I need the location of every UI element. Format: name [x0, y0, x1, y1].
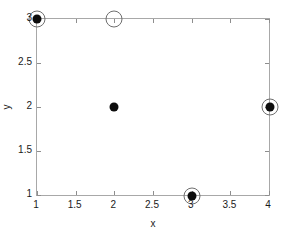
- ytick-label: 2: [20, 101, 32, 111]
- ytick-mark: [37, 107, 41, 108]
- ytick-mark: [37, 63, 41, 64]
- plot-area[interactable]: [36, 18, 270, 196]
- xtick-mark: [153, 191, 154, 195]
- xtick-mark: [76, 191, 77, 195]
- xtick-mark: [114, 191, 115, 195]
- y-axis-label: y: [2, 105, 12, 110]
- xtick-mark-top: [153, 19, 154, 23]
- xtick-label: 2: [111, 200, 117, 210]
- ytick-mark: [37, 151, 41, 152]
- ytick-label: 1.5: [11, 145, 32, 155]
- data-point-dot[interactable]: [110, 103, 119, 112]
- xtick-label: 3.5: [222, 200, 236, 210]
- xtick-label: 4: [265, 200, 271, 210]
- ytick-mark-right: [265, 151, 269, 152]
- ytick-mark-right: [265, 63, 269, 64]
- ytick-mark-right: [265, 19, 269, 20]
- xtick-mark: [230, 191, 231, 195]
- xtick-label: 1.5: [68, 200, 82, 210]
- xtick-mark: [269, 191, 270, 195]
- xtick-mark-top: [230, 19, 231, 23]
- data-point-dot[interactable]: [33, 15, 42, 24]
- ytick-mark: [37, 195, 41, 196]
- figure-canvas: 1 1.5 2 2.5 3 3.5 4 1 1.5 2 2.5 3 x y: [0, 0, 284, 239]
- ytick-label: 3: [20, 13, 32, 23]
- data-point-dot[interactable]: [266, 103, 275, 112]
- ytick-label: 1: [20, 189, 32, 199]
- xtick-label: 1: [33, 200, 39, 210]
- x-axis-label: x: [151, 219, 156, 229]
- xtick-mark-top: [269, 19, 270, 23]
- xtick-label: 2.5: [145, 200, 159, 210]
- xtick-mark-top: [192, 19, 193, 23]
- ytick-mark-right: [265, 195, 269, 196]
- ytick-label: 2.5: [11, 57, 32, 67]
- xtick-label: 3: [188, 200, 194, 210]
- data-point-ring[interactable]: [106, 11, 123, 28]
- xtick-mark-top: [76, 19, 77, 23]
